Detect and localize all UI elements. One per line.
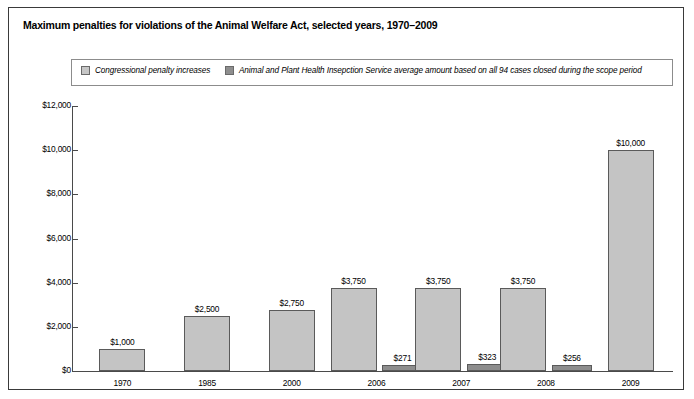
x-axis-tick-label: 2006 <box>334 378 419 388</box>
y-axis-tick-mark <box>73 106 78 107</box>
bar-value-label: $3,750 <box>511 276 535 286</box>
y-axis-tick: $2,000 <box>12 327 78 328</box>
chart-title: Maximum penalties for violations of the … <box>23 19 437 31</box>
x-axis-tick-label: 2000 <box>249 378 334 388</box>
plot-area: $0$2,000$4,000$6,000$8,000$10,000$12,000… <box>72 106 673 372</box>
y-axis-tick-label: $6,000 <box>47 233 71 243</box>
legend-swatch-icon-1 <box>225 66 234 75</box>
y-axis-tick-mark <box>73 194 78 195</box>
legend-swatch-icon-0 <box>81 66 90 75</box>
y-axis-tick-mark <box>73 283 78 284</box>
bar-value-label: $256 <box>563 353 581 363</box>
y-axis-tick-label: $12,000 <box>42 100 71 110</box>
bar-2000-series0[interactable]: $2,750 <box>269 310 315 371</box>
bar-value-label: $271 <box>394 353 412 363</box>
legend-item-aphis-average-amount: Animal and Plant Health Insepction Servi… <box>225 66 642 75</box>
y-axis-tick-label: $10,000 <box>42 144 71 154</box>
x-axis-tick-label: 1970 <box>80 378 165 388</box>
bar-group: $3,750$271 <box>334 106 419 371</box>
y-axis-tick-label: $0 <box>62 365 71 375</box>
bar-group: $2,500 <box>165 106 250 371</box>
y-axis-tick-label: $2,000 <box>47 321 71 331</box>
y-axis-tick: $0 <box>12 371 78 372</box>
y-axis-tick-mark <box>73 150 78 151</box>
x-axis-tick-label: 1985 <box>165 378 250 388</box>
x-axis-tick-label: 2009 <box>588 378 673 388</box>
y-axis-tick: $4,000 <box>12 283 78 284</box>
bar-group: $10,000 <box>588 106 673 371</box>
bar-group: $3,750$256 <box>504 106 589 371</box>
bar-2006-series0[interactable]: $3,750 <box>331 288 377 371</box>
bar-value-label: $10,000 <box>616 138 645 148</box>
figure-panel: Maximum penalties for violations of the … <box>8 7 684 390</box>
bar-1985-series0[interactable]: $2,500 <box>184 316 230 371</box>
y-axis-tick-label: $4,000 <box>47 277 71 287</box>
bar-value-label: $323 <box>478 352 496 362</box>
y-axis-tick: $10,000 <box>12 150 78 151</box>
y-axis-tick-mark <box>73 239 78 240</box>
bar-2008-series0[interactable]: $3,750 <box>500 288 546 371</box>
bar-2009-series0[interactable]: $10,000 <box>608 150 654 371</box>
legend-label-0: Congressional penalty increases <box>95 66 210 75</box>
y-axis-tick-label: $8,000 <box>47 188 71 198</box>
bar-group: $3,750$323 <box>419 106 504 371</box>
bar-value-label: $2,500 <box>195 304 219 314</box>
bar-value-label: $1,000 <box>110 337 134 347</box>
y-axis-tick-mark <box>73 371 78 372</box>
x-axis-line <box>72 371 673 372</box>
bar-value-label: $3,750 <box>341 276 365 286</box>
legend-label-1: Animal and Plant Health Insepction Servi… <box>239 66 642 75</box>
chart-legend: Congressional penalty increases Animal a… <box>71 59 673 86</box>
y-axis-tick: $8,000 <box>12 194 78 195</box>
bar-value-label: $3,750 <box>426 276 450 286</box>
x-axis-tick-label: 2008 <box>504 378 589 388</box>
bar-group: $2,750 <box>249 106 334 371</box>
bar-2007-series0[interactable]: $3,750 <box>415 288 461 371</box>
y-axis-tick: $6,000 <box>12 239 78 240</box>
x-axis-tick-label: 2007 <box>419 378 504 388</box>
bar-group: $1,000 <box>80 106 165 371</box>
y-axis-tick-mark <box>73 327 78 328</box>
y-axis-tick: $12,000 <box>12 106 78 107</box>
bar-1970-series0[interactable]: $1,000 <box>99 349 145 371</box>
bar-2008-series1[interactable]: $256 <box>552 365 592 371</box>
bar-value-label: $2,750 <box>280 298 304 308</box>
legend-item-congressional-penalty-increases: Congressional penalty increases <box>81 66 210 75</box>
